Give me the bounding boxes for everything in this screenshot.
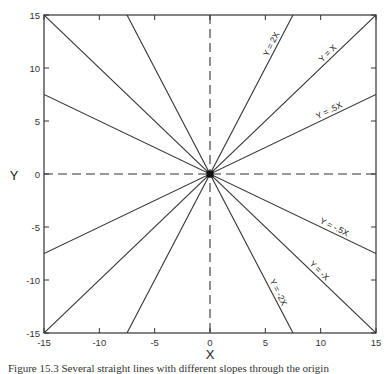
x-tick-label: -15	[37, 337, 51, 348]
y-tick-label: -15	[26, 328, 40, 339]
figure-caption: Figure 15.3 Several straight lines with …	[8, 362, 392, 374]
line-chart: -15-10-5051015-15-10-5051015Y = 2XY = XY…	[0, 0, 392, 360]
line-label: Y = -2X	[268, 277, 290, 307]
plot-area: -15-10-5051015-15-10-5051015Y = 2XY = XY…	[26, 10, 381, 349]
x-tick-label: -5	[150, 337, 158, 348]
y-tick-label: 15	[29, 10, 40, 21]
y-tick-label: 10	[29, 63, 40, 74]
x-axis-title: X	[206, 347, 215, 360]
y-tick-label: -5	[32, 222, 40, 233]
x-tick-label: -10	[92, 337, 106, 348]
y-axis-title: Y	[10, 168, 19, 183]
y-tick-label: 0	[35, 169, 40, 180]
origin-marker	[207, 171, 214, 178]
x-tick-label: 5	[263, 337, 268, 348]
x-tick-label: 15	[371, 337, 382, 348]
x-tick-label: 10	[315, 337, 326, 348]
line-label: Y = .5X	[314, 99, 344, 121]
y-tick-label: -10	[26, 275, 40, 286]
line-label: Y = -.5X	[318, 216, 350, 239]
y-tick-label: 5	[35, 116, 40, 127]
